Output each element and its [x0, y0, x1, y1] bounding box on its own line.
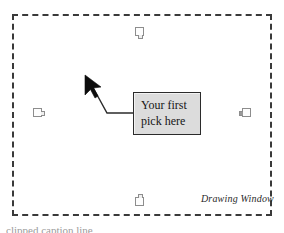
drawing-window-figure: Drawing Window Your first pick here clip…: [0, 0, 284, 233]
grip-handle-top[interactable]: [135, 27, 144, 36]
grip-handle-bottom[interactable]: [135, 197, 144, 206]
callout-line-1: Your first: [141, 97, 200, 113]
callout-line-2: pick here: [141, 113, 200, 129]
clipped-caption: clipped caption line: [6, 224, 278, 233]
grip-handle-right[interactable]: [242, 108, 251, 117]
callout-box[interactable]: Your first pick here: [133, 92, 201, 135]
drawing-window-label: Drawing Window: [164, 193, 274, 205]
caption-text: clipped caption line: [6, 224, 278, 233]
grip-handle-left[interactable]: [33, 108, 42, 117]
